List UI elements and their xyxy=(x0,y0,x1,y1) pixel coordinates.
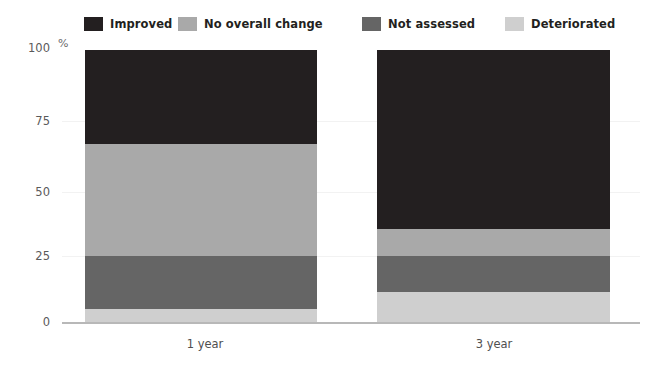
y-axis-tick-label: 50 xyxy=(10,186,50,198)
y-axis-tick-label: 100 xyxy=(10,42,50,54)
y-axis-tick: 0 xyxy=(5,316,50,328)
x-axis-tick-label: 1 year xyxy=(145,337,265,351)
y-axis-tick: 50 xyxy=(5,186,50,198)
bar-1-year[interactable] xyxy=(85,50,317,322)
bar-segment-deteriorated[interactable] xyxy=(85,309,317,322)
bar-3-year[interactable] xyxy=(377,50,610,322)
y-axis-tick-label: 0 xyxy=(10,316,50,328)
bar-segment-no-overall-change[interactable] xyxy=(377,229,610,256)
bar-segment-improved[interactable] xyxy=(85,50,317,144)
bar-segment-deteriorated[interactable] xyxy=(377,292,610,322)
stacked-bar-chart: ImprovedNo overall changeNot assessedDet… xyxy=(0,0,661,367)
bar-segment-not-assessed[interactable] xyxy=(85,256,317,309)
y-axis-unit-label: % xyxy=(58,37,68,50)
bar-segment-not-assessed[interactable] xyxy=(377,256,610,292)
y-axis-tick: 25 xyxy=(5,250,50,262)
y-axis-tick-label: 75 xyxy=(10,115,50,127)
y-axis-tick-label: 25 xyxy=(10,250,50,262)
bar-segment-improved[interactable] xyxy=(377,50,610,229)
bar-segment-no-overall-change[interactable] xyxy=(85,144,317,256)
chart-plot-area: % 10075502501 year3 year xyxy=(0,0,661,367)
x-axis-baseline xyxy=(62,322,640,324)
x-axis-tick-label: 3 year xyxy=(434,337,554,351)
y-axis-tick: 100 xyxy=(5,42,50,54)
y-axis-tick: 75 xyxy=(5,115,50,127)
